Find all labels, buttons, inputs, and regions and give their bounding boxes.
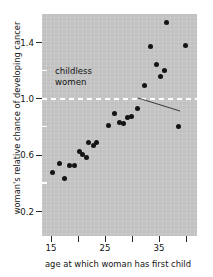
y-tick-label-1-4: 1.4 xyxy=(12,38,34,48)
data-point xyxy=(106,123,111,128)
x-tick-label-35: 35 xyxy=(147,243,171,253)
x-tick-mark-30 xyxy=(132,236,133,242)
data-point xyxy=(164,20,169,25)
data-point xyxy=(142,83,147,88)
x-tick-mark-40 xyxy=(186,236,187,242)
x-tick-mark-25 xyxy=(105,236,106,242)
data-point xyxy=(57,161,62,166)
data-point xyxy=(154,62,159,67)
y-minor-tick-0-4 xyxy=(42,182,47,183)
data-point xyxy=(50,170,55,175)
data-point xyxy=(112,111,117,116)
data-point xyxy=(183,43,188,48)
y-tick-label-0-2: 0.2 xyxy=(12,207,34,217)
data-point xyxy=(94,140,99,145)
data-point xyxy=(176,124,181,129)
data-point xyxy=(129,114,134,119)
panel-texture xyxy=(42,14,197,236)
data-point xyxy=(158,74,163,79)
y-tick-label-0-6: 0.6 xyxy=(12,150,34,160)
annotation-leader-line xyxy=(138,96,182,113)
y-minor-tick-1-2 xyxy=(42,70,47,71)
x-tick-label-15: 15 xyxy=(39,243,63,253)
x-tick-mark-20 xyxy=(78,236,79,242)
x-tick-mark-35 xyxy=(159,236,160,242)
data-point xyxy=(121,121,126,126)
plot-area xyxy=(42,14,197,236)
data-point xyxy=(62,176,67,181)
annotation-childless: childless xyxy=(55,66,92,77)
y-minor-tick-0-8 xyxy=(42,126,47,127)
y-tick-label-1-0: 1.0 xyxy=(12,94,34,104)
x-tick-mark-15 xyxy=(51,236,52,242)
x-axis-title: age at which woman has first child xyxy=(28,259,208,269)
data-point xyxy=(148,44,153,49)
scatter-chart-figure: woman's relative chance of developing ca… xyxy=(0,0,213,277)
data-point xyxy=(72,163,77,168)
data-point xyxy=(135,106,140,111)
annotation-women: women xyxy=(55,77,86,88)
x-tick-label-25: 25 xyxy=(93,243,117,253)
data-point xyxy=(162,68,167,73)
